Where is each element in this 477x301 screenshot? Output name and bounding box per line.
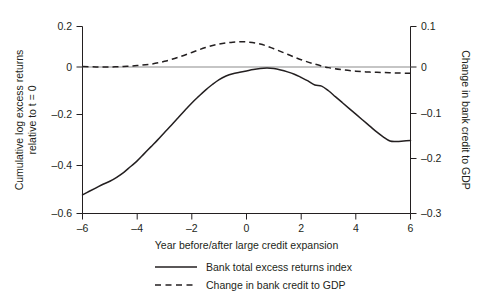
x-tick-label-2: –2 [186, 222, 198, 234]
legend-label-1: Change in bank credit to GDP [206, 279, 346, 291]
right-tick-label-4: –0.3 [421, 207, 442, 219]
right-tick-label-3: –0.2 [421, 152, 442, 164]
chart-background [0, 0, 477, 301]
chart-figure: 0.2 0 –0.2 –0.4 –0.6 0.1 0 –0.1 –0.2 –0.… [0, 0, 477, 301]
right-tick-label-1: 0 [421, 61, 427, 73]
chart-svg: 0.2 0 –0.2 –0.4 –0.6 0.1 0 –0.1 –0.2 –0.… [0, 0, 477, 301]
y-axis-title-line1: Cumulative log excess returns [13, 50, 25, 191]
x-tick-label-1: –4 [131, 222, 143, 234]
left-tick-label-1: 0 [66, 61, 72, 73]
x-tick-label-4: 2 [298, 222, 304, 234]
x-tick-label-0: –6 [77, 222, 89, 234]
x-axis-title: Year before/after large credit expansion [155, 239, 339, 251]
y-axis-title-line2: relative to t = 0 [26, 85, 38, 154]
left-tick-label-0: 0.2 [57, 20, 72, 32]
x-tick-label-3: 0 [244, 222, 250, 234]
left-tick-label-2: –0.2 [52, 108, 73, 120]
left-tick-label-3: –0.4 [52, 159, 73, 171]
right-tick-label-2: –0.1 [421, 107, 442, 119]
x-tick-label-5: 4 [353, 222, 359, 234]
y2-axis-title: Change in bank credit to GDP [460, 50, 472, 190]
x-tick-label-6: 6 [408, 222, 414, 234]
right-tick-label-0: 0.1 [421, 20, 436, 32]
legend-label-0: Bank total excess returns index [206, 261, 353, 273]
left-tick-label-4: –0.6 [52, 207, 73, 219]
